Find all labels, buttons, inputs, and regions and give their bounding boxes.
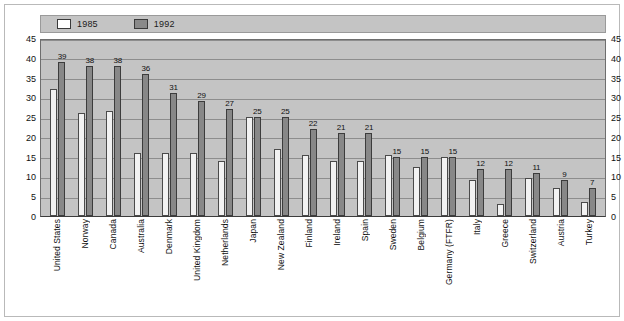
bar-1985 — [385, 155, 392, 216]
x-label-cell: Ireland — [323, 219, 351, 311]
bar-1992: 21 — [365, 133, 372, 216]
legend-item-1985: 1985 — [57, 19, 98, 29]
bar-group: 7 — [574, 40, 602, 216]
bar-1985 — [50, 89, 57, 216]
x-label-cell: Finland — [295, 219, 323, 311]
bar-1992: 11 — [533, 173, 540, 217]
x-axis-label: Spain — [361, 219, 370, 241]
y-tick-left-15: 15 — [10, 153, 36, 162]
bar-1985 — [78, 113, 85, 216]
chart-page: 1985 1992 454035302520151050 45403530252… — [0, 0, 624, 321]
x-axis-labels: United StatesNorwayCanadaAustraliaDenmar… — [40, 219, 606, 311]
x-axis-label: Australia — [137, 219, 146, 253]
bar-1985 — [581, 202, 588, 216]
bar-value-label: 7 — [590, 178, 594, 187]
bar-1992: 31 — [170, 93, 177, 216]
bar-1992: 12 — [505, 169, 512, 216]
bar-1985 — [469, 180, 476, 216]
y-tick-right-25: 25 — [608, 114, 624, 123]
bar-1992: 22 — [310, 129, 317, 216]
x-label-cell: Spain — [351, 219, 379, 311]
bar-1992: 21 — [338, 133, 345, 216]
bar-value-label: 15 — [448, 147, 457, 156]
y-tick-left-30: 30 — [10, 94, 36, 103]
bar-group: 21 — [351, 40, 379, 216]
legend-swatch-1992-icon — [134, 19, 148, 29]
x-label-cell: Denmark — [155, 219, 183, 311]
y-tick-right-45: 45 — [608, 35, 624, 44]
plot-area: 39383836312927252522212115151512121197 — [40, 39, 606, 217]
bar-value-label: 29 — [197, 91, 206, 100]
bar-1992: 38 — [86, 66, 93, 216]
bar-group: 36 — [128, 40, 156, 216]
bar-group: 9 — [546, 40, 574, 216]
bar-group: 25 — [267, 40, 295, 216]
bar-group: 39 — [44, 40, 72, 216]
bar-1985 — [106, 111, 113, 216]
y-tick-left-5: 5 — [10, 193, 36, 202]
y-tick-left-25: 25 — [10, 114, 36, 123]
bar-value-label: 39 — [58, 52, 67, 61]
x-axis-label: Japan — [249, 219, 258, 243]
y-tick-left-20: 20 — [10, 133, 36, 142]
bar-1985 — [218, 161, 225, 216]
bar-1985 — [302, 155, 309, 216]
bar-value-label: 25 — [281, 107, 290, 116]
x-label-cell: Netherlands — [211, 219, 239, 311]
bar-group: 31 — [156, 40, 184, 216]
bar-1985 — [190, 153, 197, 216]
y-tick-right-15: 15 — [608, 153, 624, 162]
x-axis-label: Italy — [473, 219, 482, 235]
y-tick-right-20: 20 — [608, 133, 624, 142]
bar-1992: 29 — [198, 101, 205, 216]
y-tick-right-30: 30 — [608, 94, 624, 103]
bar-group: 38 — [100, 40, 128, 216]
y-axis-right: 454035302520151050 — [608, 39, 624, 217]
bar-1992: 36 — [142, 74, 149, 216]
bar-1992: 39 — [58, 62, 65, 216]
bar-1992: 38 — [114, 66, 121, 216]
bar-1992: 9 — [561, 180, 568, 216]
y-tick-left-10: 10 — [10, 173, 36, 182]
x-label-cell: Italy — [463, 219, 491, 311]
bar-value-label: 15 — [393, 147, 402, 156]
bar-value-label: 12 — [504, 159, 513, 168]
bar-group: 11 — [518, 40, 546, 216]
x-label-cell: Canada — [99, 219, 127, 311]
legend-swatch-1985-icon — [57, 19, 71, 29]
bar-value-label: 21 — [337, 123, 346, 132]
x-axis-label: Sweden — [389, 219, 398, 250]
bar-group: 38 — [72, 40, 100, 216]
bar-group: 15 — [435, 40, 463, 216]
bar-1985 — [162, 153, 169, 216]
bar-value-label: 36 — [141, 64, 150, 73]
x-label-cell: Belgium — [407, 219, 435, 311]
y-axis-left: 454035302520151050 — [10, 39, 36, 217]
x-axis-label: Austria — [557, 219, 566, 246]
bar-group: 15 — [407, 40, 435, 216]
x-label-cell: Turkey — [575, 219, 603, 311]
x-axis-label: Netherlands — [221, 219, 230, 266]
x-axis-label: Germany (FTFR) — [445, 219, 454, 285]
y-tick-left-40: 40 — [10, 54, 36, 63]
x-axis-label: Belgium — [417, 219, 426, 250]
x-axis-label: Canada — [109, 219, 118, 249]
bar-group: 12 — [491, 40, 519, 216]
bar-1985 — [413, 167, 420, 216]
bar-value-label: 11 — [532, 163, 540, 172]
bar-1985 — [246, 117, 253, 216]
x-label-cell: Switzerland — [519, 219, 547, 311]
bar-1992: 15 — [421, 157, 428, 216]
bar-value-label: 38 — [114, 56, 123, 65]
legend-item-1992: 1992 — [134, 19, 175, 29]
x-axis-label: Ireland — [333, 219, 342, 246]
bar-group: 27 — [211, 40, 239, 216]
bar-group: 25 — [239, 40, 267, 216]
x-label-cell: United States — [43, 219, 71, 311]
bar-value-label: 38 — [86, 56, 95, 65]
bar-1985 — [441, 157, 448, 216]
bar-value-label: 22 — [309, 119, 318, 128]
y-tick-left-0: 0 — [10, 213, 36, 222]
bar-1985 — [357, 161, 364, 216]
x-axis-label: Finland — [305, 219, 314, 248]
